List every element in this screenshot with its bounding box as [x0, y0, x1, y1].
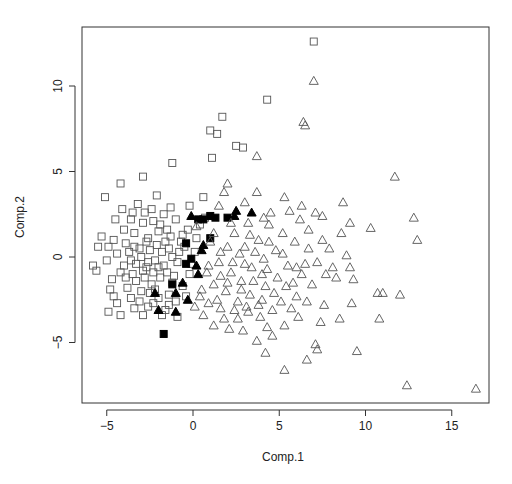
point-open-triangle	[240, 242, 249, 250]
data-points	[89, 38, 480, 392]
point-open-triangle	[276, 297, 285, 305]
point-open-square	[153, 192, 160, 199]
point-open-square	[169, 159, 176, 166]
point-open-triangle	[328, 263, 337, 271]
point-open-square	[121, 262, 128, 269]
point-open-square	[107, 286, 114, 293]
point-open-triangle	[304, 225, 313, 233]
point-open-triangle	[245, 230, 254, 238]
point-open-square	[127, 216, 134, 223]
point-filled-square	[200, 216, 207, 223]
point-open-square	[207, 127, 214, 134]
x-tick-label: 0	[190, 419, 197, 433]
point-open-triangle	[221, 287, 230, 295]
point-open-triangle	[230, 306, 239, 314]
point-open-triangle	[214, 258, 223, 266]
point-open-square	[146, 247, 153, 254]
point-open-triangle	[302, 297, 311, 305]
point-open-square	[164, 226, 171, 233]
point-open-square	[208, 154, 215, 161]
point-open-triangle	[204, 299, 213, 307]
point-open-triangle	[239, 326, 248, 334]
point-open-triangle	[273, 273, 282, 281]
point-open-square	[169, 254, 176, 261]
point-open-triangle	[352, 347, 361, 355]
point-open-triangle	[295, 215, 304, 223]
point-open-triangle	[349, 275, 358, 283]
y-axis: −50510	[51, 79, 75, 349]
point-open-square	[131, 243, 138, 250]
point-filled-square	[160, 330, 167, 337]
point-open-triangle	[263, 323, 272, 331]
y-tick-label: 5	[51, 168, 65, 175]
point-open-triangle	[223, 242, 232, 250]
point-open-triangle	[261, 282, 270, 290]
point-open-square	[264, 96, 271, 103]
point-open-triangle	[254, 235, 263, 243]
point-open-triangle	[290, 237, 299, 245]
point-open-square	[219, 113, 226, 120]
point-open-square	[121, 226, 128, 233]
point-open-triangle	[471, 384, 480, 392]
point-open-triangle	[292, 263, 301, 271]
point-open-triangle	[413, 235, 422, 243]
point-open-triangle	[237, 285, 246, 293]
point-open-square	[114, 300, 121, 307]
point-open-triangle	[280, 193, 289, 201]
point-open-square	[155, 228, 162, 235]
point-open-square	[110, 236, 117, 243]
point-open-square	[139, 173, 146, 180]
point-open-triangle	[366, 223, 375, 231]
point-open-square	[145, 259, 152, 266]
point-open-square	[98, 233, 105, 240]
point-open-triangle	[258, 270, 267, 278]
point-open-square	[184, 226, 191, 233]
point-open-square	[160, 211, 167, 218]
point-open-triangle	[266, 208, 275, 216]
point-open-square	[138, 288, 145, 295]
plot-frame	[82, 27, 489, 403]
point-open-square	[162, 238, 169, 245]
point-open-square	[158, 248, 165, 255]
point-open-triangle	[263, 264, 272, 272]
point-open-square	[117, 269, 124, 276]
point-open-triangle	[342, 251, 351, 259]
point-open-triangle	[220, 188, 229, 196]
point-open-square	[126, 248, 133, 255]
point-open-triangle	[230, 229, 239, 237]
point-open-triangle	[197, 285, 206, 293]
point-open-triangle	[345, 263, 354, 271]
point-open-triangle	[375, 314, 384, 322]
point-open-triangle	[289, 278, 298, 286]
point-open-square	[95, 243, 102, 250]
point-open-square	[214, 130, 221, 137]
point-open-square	[129, 209, 136, 216]
point-open-square	[139, 219, 146, 226]
y-tick-label: −5	[51, 335, 65, 349]
x-axis-label: Comp.1	[262, 450, 304, 464]
point-open-square	[240, 144, 247, 151]
point-open-triangle	[259, 254, 268, 262]
point-open-square	[186, 202, 193, 209]
point-open-square	[127, 295, 134, 302]
point-open-square	[153, 242, 160, 249]
point-open-square	[176, 248, 183, 255]
point-open-square	[124, 284, 131, 291]
point-open-triangle	[244, 307, 253, 315]
point-open-square	[136, 298, 143, 305]
point-open-triangle	[304, 244, 313, 252]
point-open-triangle	[335, 314, 344, 322]
point-open-triangle	[308, 280, 317, 288]
point-open-triangle	[252, 336, 261, 344]
point-open-square	[129, 271, 136, 278]
point-open-triangle	[244, 218, 253, 226]
point-open-square	[131, 230, 138, 237]
point-open-square	[164, 269, 171, 276]
point-filled-square	[183, 240, 190, 247]
point-filled-square	[169, 281, 176, 288]
point-open-square	[117, 312, 124, 319]
point-open-triangle	[240, 198, 249, 206]
point-open-triangle	[252, 152, 261, 160]
point-open-triangle	[270, 288, 279, 296]
point-open-square	[310, 38, 317, 45]
